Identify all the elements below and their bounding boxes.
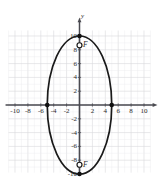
x-tick-label: -10: [10, 108, 19, 115]
y-tick-label: 8: [74, 46, 78, 53]
y-tick-label: -2: [71, 115, 77, 122]
x-tick-label: 4: [104, 108, 108, 115]
focus-label-lower: F: [83, 161, 88, 169]
focus-lower: [77, 162, 82, 167]
focus-upper: [77, 43, 82, 48]
x-tick-label: 2: [91, 108, 95, 115]
y-tick-label: -6: [71, 143, 77, 150]
y-tick-label: 10: [70, 33, 77, 40]
vertex-top: [77, 34, 82, 39]
graph-canvas: [0, 0, 160, 179]
y-tick-label: -4: [71, 129, 77, 136]
ellipse-figure: -10-8-6-4-2246810108642-2-4-6-8-10yFF: [0, 0, 160, 179]
x-axis-arrow: [153, 103, 158, 107]
y-tick-label: -10: [68, 171, 77, 178]
x-tick-label: -6: [38, 108, 44, 115]
x-tick-label: 6: [116, 108, 120, 115]
y-axis-label: y: [81, 13, 84, 20]
x-tick-label: -2: [64, 108, 70, 115]
x-tick-label: -4: [51, 108, 57, 115]
focus-label-upper: F: [83, 41, 88, 49]
covertex-right: [109, 103, 114, 108]
covertex-left: [45, 103, 50, 108]
x-tick-label: -8: [25, 108, 31, 115]
y-tick-label: -8: [71, 157, 77, 164]
x-tick-label: 8: [129, 108, 133, 115]
y-tick-label: 2: [74, 88, 78, 95]
y-tick-label: 6: [74, 60, 78, 67]
x-tick-label: 10: [141, 108, 148, 115]
vertex-bottom: [77, 172, 82, 177]
y-tick-label: 4: [74, 74, 78, 81]
